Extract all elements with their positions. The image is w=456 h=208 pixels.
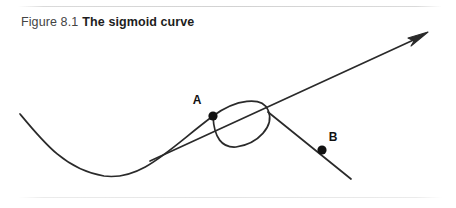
descending-tail-line: [268, 112, 351, 179]
trend-arrow-line: [150, 37, 420, 161]
sigmoid-curve-path: [20, 101, 270, 176]
point-b-label: B: [329, 130, 338, 144]
point-a-marker: [208, 111, 217, 120]
figure-container: Figure 8.1The sigmoid curve A B: [0, 0, 456, 208]
point-b-marker: [317, 145, 326, 154]
trend-arrow-head-icon: [408, 32, 428, 46]
bottom-divider: [18, 197, 442, 198]
sigmoid-curve-plot: A B: [0, 0, 456, 208]
point-a-label: A: [193, 93, 202, 107]
